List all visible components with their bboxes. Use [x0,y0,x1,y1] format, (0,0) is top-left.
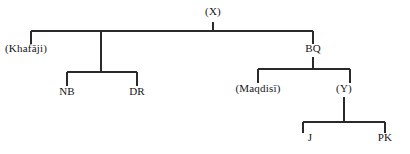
node-label-khafaji: (Khafāji) [5,43,47,54]
node-label-j: J [308,132,312,143]
node-label-bq: BQ [305,43,321,54]
tree-connector-lines [0,0,410,154]
node-label-y: (Y) [336,83,352,94]
node-label-nb: NB [59,86,75,97]
node-label-pk: PK [378,132,392,143]
node-label-maqdisi: (Maqdisī) [235,83,280,94]
stemma-diagram: (X) (Khafāji) BQ NB DR (Maqdisī) (Y) J P… [0,0,410,154]
node-label-x: (X) [205,6,221,17]
node-label-dr: DR [129,86,145,97]
